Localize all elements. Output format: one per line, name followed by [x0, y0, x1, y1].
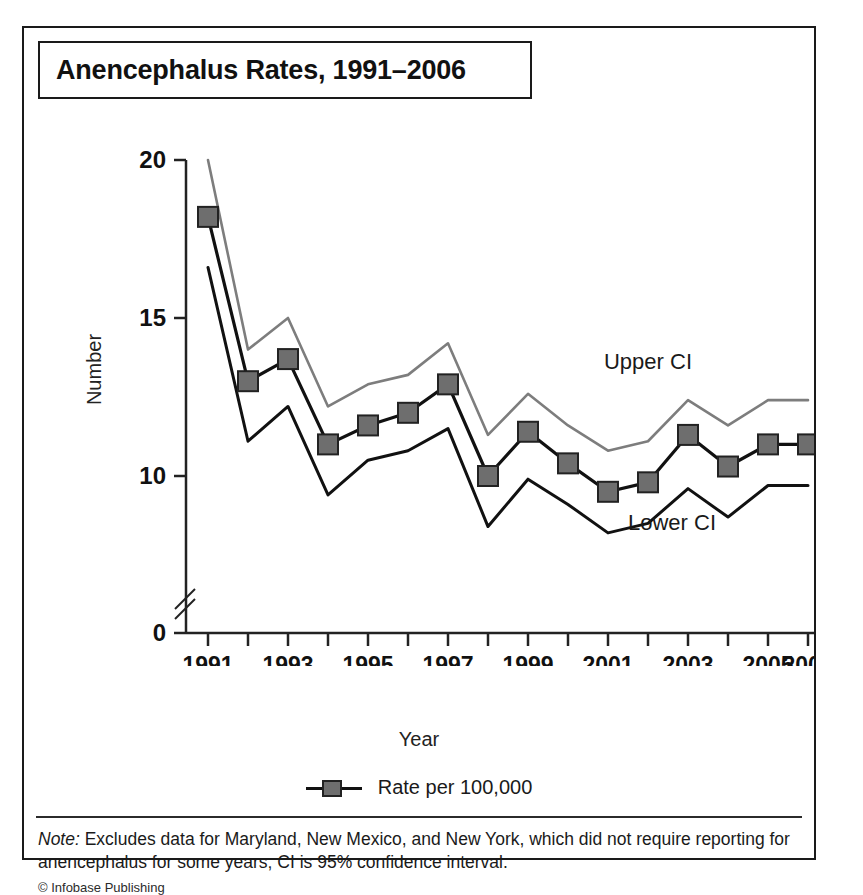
rate-data-point	[358, 415, 378, 435]
rate-data-point	[518, 422, 538, 442]
footer-divider	[36, 816, 802, 818]
rate-data-point	[678, 425, 698, 445]
chart-annotation: Upper CI	[604, 349, 692, 374]
plot-area: 0101520199119931995199719992001200320052…	[24, 106, 814, 666]
y-axis-title: Number	[83, 290, 106, 450]
y-axis-tick-label: 0	[153, 619, 166, 646]
rate-data-point	[558, 453, 578, 473]
rate-data-point	[758, 434, 778, 454]
y-axis-tick-label: 20	[139, 146, 166, 173]
x-axis-tick-label: 2003	[662, 652, 713, 666]
rate-data-point	[398, 403, 418, 423]
x-axis-tick-label: 1995	[342, 652, 393, 666]
y-axis-tick-label: 10	[139, 462, 166, 489]
rate-data-point	[318, 434, 338, 454]
x-axis-tick-label: 1999	[502, 652, 553, 666]
legend-marker	[322, 780, 342, 797]
rate-data-point	[198, 207, 218, 227]
note-label: Note:	[38, 829, 80, 849]
x-axis-title: Year	[24, 728, 814, 751]
line-with-square-marker-icon	[306, 777, 362, 799]
copyright-line: © Infobase Publishing	[38, 880, 165, 895]
rate-data-point	[598, 482, 618, 502]
note-body: Excludes data for Maryland, New Mexico, …	[38, 829, 790, 872]
rate-data-point	[438, 374, 458, 394]
page-title: Anencephalus Rates, 1991–2006	[40, 55, 466, 86]
rate-data-point	[278, 349, 298, 369]
figure-panel: Anencephalus Rates, 1991–2006 0101520199…	[22, 26, 816, 860]
y-axis-tick-label: 15	[139, 304, 166, 331]
rate-data-point	[478, 466, 498, 486]
x-axis-tick-label: 2006	[782, 652, 814, 666]
figure-note: Note: Excludes data for Maryland, New Me…	[38, 828, 798, 874]
lower-ci-line	[208, 267, 808, 532]
upper-ci-line	[208, 160, 808, 451]
legend-series-label: Rate per 100,000	[378, 776, 533, 799]
x-axis-tick-label: 1993	[262, 652, 313, 666]
line-chart-svg: 0101520199119931995199719992001200320052…	[24, 106, 814, 666]
chart-title-box: Anencephalus Rates, 1991–2006	[38, 41, 532, 99]
x-axis-tick-label: 1991	[182, 652, 233, 666]
rate-data-point	[638, 472, 658, 492]
rate-data-point	[798, 434, 814, 454]
x-axis-tick-label: 2001	[582, 652, 633, 666]
chart-legend: Rate per 100,000	[24, 776, 814, 799]
x-axis-tick-label: 1997	[422, 652, 473, 666]
chart-annotation: Lower CI	[628, 510, 716, 535]
rate-data-point	[718, 457, 738, 477]
rate-data-point	[238, 371, 258, 391]
